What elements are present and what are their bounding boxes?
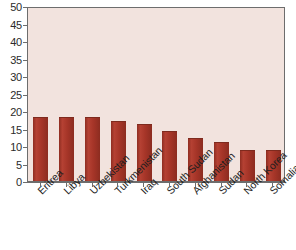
y-axis-tick-mark (23, 147, 27, 148)
y-axis-tick-mark (23, 25, 27, 26)
x-axis: EritreaLibyaUzbekistanTurkmenistanIraqSo… (0, 188, 296, 250)
y-axis-tick-label: 45 (10, 19, 22, 30)
y-axis-tick-label: 5 (16, 159, 22, 170)
y-axis-tick-label: 40 (10, 37, 22, 48)
x-axis-tick-mark (169, 183, 170, 187)
x-axis-tick-mark (143, 183, 144, 187)
y-axis-tick-label: 0 (16, 177, 22, 188)
y-axis-tick-label: 25 (10, 89, 22, 100)
y-axis-tick-mark (23, 77, 27, 78)
x-axis-tick-mark (92, 183, 93, 187)
y-axis-tick-mark (23, 60, 27, 61)
x-axis-tick-mark (221, 183, 222, 187)
x-axis-tick-mark (40, 183, 41, 187)
y-axis-tick-label: 50 (10, 2, 22, 13)
x-axis-tick-mark (272, 183, 273, 187)
bar-chart: 05101520253035404550 EritreaLibyaUzbekis… (0, 0, 296, 250)
y-axis-tick-label: 20 (10, 107, 22, 118)
y-axis-tick-mark (23, 95, 27, 96)
y-axis-tick-label: 10 (10, 142, 22, 153)
x-axis-tick-mark (117, 183, 118, 187)
x-axis-tick-mark (195, 183, 196, 187)
y-axis-tick-mark (23, 112, 27, 113)
y-axis-tick-label: 30 (10, 72, 22, 83)
y-axis-tick-label: 35 (10, 54, 22, 65)
y-axis-tick-mark (23, 165, 27, 166)
bar (85, 117, 100, 181)
bar (33, 117, 48, 181)
bar (162, 131, 177, 181)
y-axis-tick-mark (23, 130, 27, 131)
y-axis-tick-mark (23, 42, 27, 43)
y-axis-tick-mark (23, 7, 27, 8)
x-axis-tick-mark (66, 183, 67, 187)
x-axis-tick-mark (246, 183, 247, 187)
y-axis-tick-label: 15 (10, 124, 22, 135)
y-axis-tick-mark (23, 182, 27, 183)
y-axis: 05101520253035404550 (0, 0, 22, 182)
